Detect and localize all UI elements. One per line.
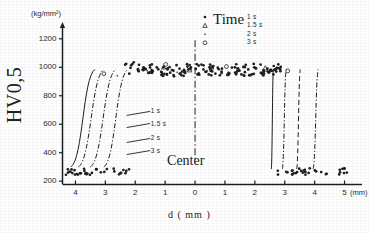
x-tick-label: 5 [339, 189, 351, 197]
x-tick-label: 3 [279, 189, 291, 197]
x-tick-label: 1 [159, 189, 171, 197]
x-axis-unit-label: (mm) [350, 189, 368, 197]
annotation-leader-lines [127, 111, 151, 154]
x-axis-title: d ( mm ) [168, 210, 211, 220]
center-annotation: Center [167, 154, 204, 168]
curve-annotation: 1.5 s [151, 121, 167, 128]
x-tick-label: 4 [69, 189, 81, 197]
x-tick-label: 1 [219, 189, 231, 197]
x-tick-label: 0 [189, 189, 201, 197]
data-points [65, 61, 349, 176]
y-tick-label: 1200 [31, 35, 57, 43]
x-tick-label: 4 [309, 189, 321, 197]
curve-annotation: 2 s [151, 135, 161, 142]
y-tick-label: 1000 [31, 63, 57, 71]
legend-entry-label: 2 s [247, 31, 257, 38]
x-tick-label: 2 [129, 189, 141, 197]
y-tick-label: 400 [31, 149, 57, 157]
curve-annotation: 3 s [151, 148, 161, 155]
y-tick-label: 200 [31, 177, 57, 185]
x-tick-label: 3 [99, 189, 111, 197]
legend-markers [203, 16, 207, 45]
x-tick-label: 2 [249, 189, 261, 197]
hardness-profile-figure: HV0,5 (kg/mm²) Time 20040060080010001200… [0, 0, 370, 233]
y-tick-label: 600 [31, 120, 57, 128]
y-tick-label: 800 [31, 92, 57, 100]
legend-entry-label: 1.5 s [247, 22, 263, 29]
legend-entry-label: 3 s [247, 39, 257, 46]
curve-annotation: 1 s [151, 108, 161, 115]
legend-entry-label: 1 s [247, 14, 257, 21]
